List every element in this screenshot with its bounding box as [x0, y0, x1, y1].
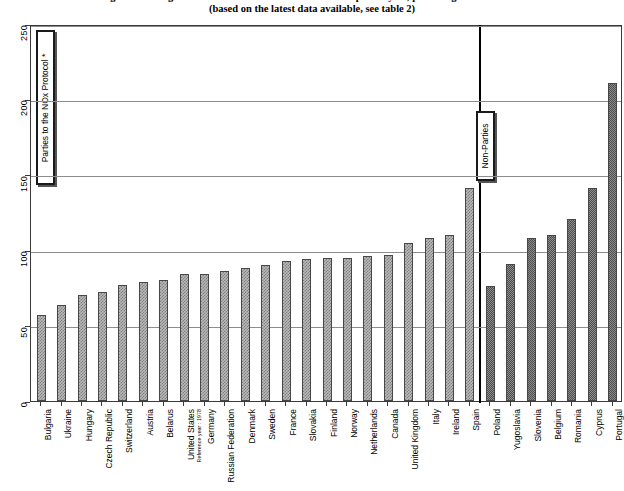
x-tick-mark — [489, 402, 490, 406]
bar — [118, 285, 127, 401]
y-tick-label-50: 50 — [19, 327, 29, 338]
x-tick-mark — [122, 402, 123, 406]
x-tick-mark — [101, 402, 102, 406]
x-axis-label: Hungary — [85, 409, 94, 441]
bar — [363, 256, 372, 401]
x-axis-label: Finland — [330, 409, 339, 437]
y-tick-label-200: 200 — [19, 100, 29, 116]
x-axis-label: Norway — [350, 409, 359, 438]
x-axis-label: United StatesReference year : 1978 — [187, 409, 202, 462]
x-tick-mark — [40, 402, 41, 406]
x-axis-label: Germany — [207, 409, 216, 444]
x-tick-mark — [142, 402, 143, 406]
x-tick-mark — [571, 402, 572, 406]
figure-title-line-2: (based on the latest data available, see… — [0, 3, 624, 15]
bar — [180, 274, 189, 401]
y-tick-label-0: 0 — [19, 402, 29, 407]
x-tick-mark — [469, 402, 470, 406]
bar — [323, 258, 332, 401]
bar — [200, 274, 209, 401]
gridline-200 — [31, 101, 621, 102]
x-tick-mark — [367, 402, 368, 406]
bar — [445, 235, 454, 401]
x-axis-label: Austria — [146, 409, 155, 435]
bar — [506, 264, 515, 401]
x-tick-mark — [326, 402, 327, 406]
x-tick-mark — [204, 402, 205, 406]
x-tick-mark — [510, 402, 511, 406]
x-tick-mark — [387, 402, 388, 406]
y-tick-label-100: 100 — [19, 251, 29, 267]
x-axis-label: Belgium — [554, 409, 563, 440]
bar — [98, 292, 107, 401]
y-tick-label-250: 250 — [19, 25, 29, 41]
gridline-150 — [31, 176, 621, 177]
bar — [241, 268, 250, 401]
x-tick-mark — [408, 402, 409, 406]
y-axis: 050100150200250 — [0, 25, 30, 402]
bar — [608, 83, 617, 401]
bar — [465, 188, 474, 401]
x-axis-label: Czech Republic — [105, 409, 114, 469]
x-axis-label: Slovakia — [309, 409, 318, 441]
x-axis-label: United Kingdom — [411, 409, 420, 469]
bar — [547, 235, 556, 401]
x-tick-mark — [163, 402, 164, 406]
x-axis-label: Ireland — [452, 409, 461, 435]
x-axis-label: France — [289, 409, 298, 435]
x-axis-label: Romania — [574, 409, 583, 443]
nonparties-callout-box: Non-Parties — [476, 111, 495, 181]
x-tick-mark — [285, 402, 286, 406]
x-axis-label: Netherlands — [370, 409, 379, 455]
bar — [302, 259, 311, 401]
x-axis-label: Denmark — [248, 409, 257, 443]
bar — [139, 282, 148, 401]
x-tick-mark — [591, 402, 592, 406]
x-tick-mark — [530, 402, 531, 406]
x-tick-mark — [612, 402, 613, 406]
x-axis-label: Yugoslavia — [513, 409, 522, 450]
nonparties-callout-label: Non-Parties — [481, 124, 491, 169]
x-axis: BulgariaUkraineHungaryCzech RepublicSwit… — [30, 402, 622, 491]
x-axis-label: Sweden — [268, 409, 277, 440]
x-axis-label: Italy — [432, 409, 441, 425]
group-divider-line — [479, 25, 481, 403]
bar — [567, 219, 576, 401]
x-tick-mark — [551, 402, 552, 406]
x-axis-label: Canada — [391, 409, 400, 439]
x-tick-mark — [183, 402, 184, 406]
x-axis-label: Poland — [493, 409, 502, 435]
x-axis-label-note: Reference year : 1978 — [196, 409, 202, 462]
x-axis-label: Switzerland — [125, 409, 134, 453]
y-tick-label-150: 150 — [19, 176, 29, 192]
x-tick-mark — [448, 402, 449, 406]
figure-title-block: Figure 4: Nitrogen oxide emission trends… — [0, 0, 624, 15]
x-tick-mark — [244, 402, 245, 406]
x-axis-label: Belarus — [166, 409, 175, 438]
parties-callout-label: Parties to the NOx Protocol * — [41, 53, 51, 162]
bar — [527, 238, 536, 401]
bar — [282, 261, 291, 401]
bar — [343, 258, 352, 401]
bar — [220, 271, 229, 401]
x-axis-label: Russian Federation — [227, 409, 236, 483]
gridline-250 — [31, 26, 621, 27]
x-axis-label: Slovenia — [534, 409, 543, 442]
x-tick-mark — [346, 402, 347, 406]
x-tick-mark — [81, 402, 82, 406]
x-tick-mark — [224, 402, 225, 406]
bar — [57, 305, 66, 402]
bar — [261, 265, 270, 401]
x-axis-label: Ukraine — [64, 409, 73, 438]
x-axis-label: Cyprus — [595, 409, 604, 436]
x-tick-mark — [61, 402, 62, 406]
bar — [588, 188, 597, 401]
bar — [159, 280, 168, 401]
bar — [384, 255, 393, 401]
bar — [37, 315, 46, 401]
x-tick-mark — [428, 402, 429, 406]
bar — [404, 243, 413, 401]
x-tick-mark — [306, 402, 307, 406]
x-axis-label: Bulgaria — [44, 409, 53, 440]
parties-callout-box: Parties to the NOx Protocol * — [36, 30, 55, 185]
